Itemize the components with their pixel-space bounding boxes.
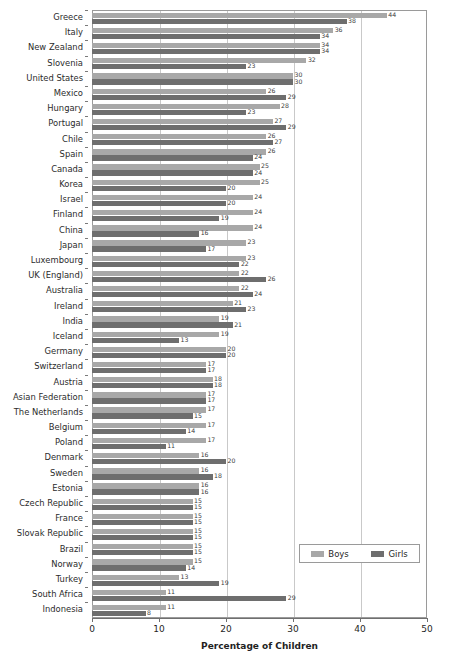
category-label: Korea (0, 177, 88, 192)
bar-value-label: 28 (281, 103, 289, 109)
bar-girls[interactable] (92, 95, 286, 100)
bar-girls[interactable] (92, 186, 226, 191)
bar-boys[interactable] (92, 590, 166, 595)
bar-girls[interactable] (92, 216, 219, 221)
bar-girls[interactable] (92, 338, 179, 343)
bar-value-label: 38 (348, 18, 356, 24)
bar-boys[interactable] (92, 271, 239, 276)
bar-boys[interactable] (92, 438, 206, 443)
bar-boys[interactable] (92, 43, 320, 48)
bar-girls[interactable] (92, 581, 219, 586)
category-tick (85, 542, 88, 543)
bar-boys[interactable] (92, 58, 306, 63)
bar-girls[interactable] (92, 322, 233, 327)
bar-girls[interactable] (92, 459, 226, 464)
bar-row: 1620 (92, 450, 427, 465)
legend-swatch-girls-icon (371, 551, 384, 557)
category-label: Sweden (0, 466, 88, 481)
bar-girls[interactable] (92, 125, 286, 130)
bar-boys[interactable] (92, 28, 333, 33)
bar-girls[interactable] (92, 383, 213, 388)
bar-girls[interactable] (92, 505, 193, 510)
bar-boys[interactable] (92, 407, 206, 412)
category-tick (85, 147, 88, 148)
bar-girls[interactable] (92, 353, 226, 358)
bar-girls[interactable] (92, 307, 246, 312)
bar-row: 1515 (92, 496, 427, 511)
bar-girls[interactable] (92, 262, 239, 267)
bar-boys[interactable] (92, 529, 193, 534)
bar-boys[interactable] (92, 256, 246, 261)
x-axis-title: Percentage of Children (92, 641, 427, 651)
bar-girls[interactable] (92, 429, 186, 434)
bar-boys[interactable] (92, 119, 273, 124)
bar-girls[interactable] (92, 201, 226, 206)
bar-girls[interactable] (92, 277, 266, 282)
bar-boys[interactable] (92, 164, 260, 169)
bar-row: 1319 (92, 572, 427, 587)
bar-girls[interactable] (92, 596, 286, 601)
bar-boys[interactable] (92, 453, 199, 458)
bar-girls[interactable] (92, 413, 193, 418)
bar-boys[interactable] (92, 73, 293, 78)
bar-girls[interactable] (92, 79, 293, 84)
bar-boys[interactable] (92, 544, 193, 549)
category-label: Turkey (0, 572, 88, 587)
bar-girls[interactable] (92, 155, 253, 160)
bar-boys[interactable] (92, 377, 213, 382)
bar-boys[interactable] (92, 514, 193, 519)
bar-girls[interactable] (92, 292, 253, 297)
bar-boys[interactable] (92, 468, 199, 473)
bar-boys[interactable] (92, 240, 246, 245)
legend-item-boys[interactable]: Boys (311, 549, 349, 559)
bar-boys[interactable] (92, 134, 266, 139)
bar-boys[interactable] (92, 559, 193, 564)
bar-girls[interactable] (92, 398, 206, 403)
bar-girls[interactable] (92, 565, 186, 570)
bar-boys[interactable] (92, 149, 266, 154)
bar-girls[interactable] (92, 49, 320, 54)
bar-boys[interactable] (92, 362, 206, 367)
bar-boys[interactable] (92, 499, 193, 504)
bar-boys[interactable] (92, 89, 266, 94)
bar-girls[interactable] (92, 34, 320, 39)
bar-girls[interactable] (92, 444, 166, 449)
bar-boys[interactable] (92, 332, 219, 337)
bar-girls[interactable] (92, 520, 193, 525)
bar-value-label: 14 (187, 565, 195, 571)
bar-boys[interactable] (92, 605, 166, 610)
bar-girls[interactable] (92, 64, 246, 69)
bar-girls[interactable] (92, 19, 347, 24)
category-label: Japan (0, 238, 88, 253)
bar-value-label: 25 (261, 163, 269, 169)
bar-boys[interactable] (92, 225, 253, 230)
bar-girls[interactable] (92, 535, 193, 540)
bar-girls[interactable] (92, 611, 146, 616)
bar-girls[interactable] (92, 231, 199, 236)
bar-row: 2317 (92, 238, 427, 253)
legend-item-girls[interactable]: Girls (371, 549, 407, 559)
bar-girls[interactable] (92, 110, 246, 115)
bar-boys[interactable] (92, 392, 206, 397)
bar-boys[interactable] (92, 316, 219, 321)
bar-boys[interactable] (92, 286, 239, 291)
bar-girls[interactable] (92, 140, 273, 145)
bar-row: 1715 (92, 405, 427, 420)
bar-girls[interactable] (92, 246, 206, 251)
bar-rows: 4438363434343223303026292823272926272624… (92, 10, 427, 618)
bar-boys[interactable] (92, 13, 387, 18)
legend-label-girls: Girls (388, 549, 407, 559)
bar-boys[interactable] (92, 575, 179, 580)
bar-boys[interactable] (92, 347, 226, 352)
category-tick (85, 420, 88, 421)
bar-girls[interactable] (92, 489, 199, 494)
bar-boys[interactable] (92, 483, 199, 488)
bar-value-label: 26 (268, 276, 276, 282)
bar-boys[interactable] (92, 301, 233, 306)
bar-girls[interactable] (92, 368, 206, 373)
bar-girls[interactable] (92, 550, 193, 555)
bar-girls[interactable] (92, 474, 213, 479)
bar-girls[interactable] (92, 170, 253, 175)
bar-value-label: 24 (254, 170, 262, 176)
category-tick (85, 602, 88, 603)
